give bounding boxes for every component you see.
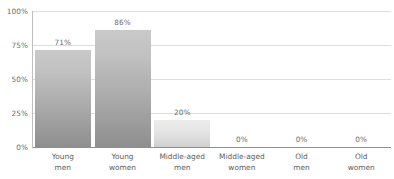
plot-area: 71% 86% 20% 0% 0% 0% xyxy=(33,11,391,147)
x-category-line1: Middle-aged xyxy=(212,151,272,162)
x-category-line2: men xyxy=(152,162,212,173)
x-category-line1: Young xyxy=(33,151,93,162)
bar-value-label: 20% xyxy=(152,108,212,117)
bar-value-label: 71% xyxy=(33,38,93,47)
bar-column: 86% xyxy=(93,11,153,147)
x-category-label: Old men xyxy=(272,149,332,179)
bar-column: 0% xyxy=(212,11,272,147)
x-category-line2: women xyxy=(93,162,153,173)
x-category-line1: Old xyxy=(272,151,332,162)
x-category-label: Young women xyxy=(93,149,153,179)
x-category-line2: women xyxy=(331,162,391,173)
x-category-line1: Young xyxy=(93,151,153,162)
x-category-line2: men xyxy=(33,162,93,173)
bar-value-label: 86% xyxy=(93,18,153,27)
y-tick-label: 75% xyxy=(0,41,28,50)
bar[interactable] xyxy=(35,50,91,147)
x-category-line1: Middle-aged xyxy=(152,151,212,162)
bar-column: 0% xyxy=(331,11,391,147)
y-tick-label: 25% xyxy=(0,109,28,118)
bar[interactable] xyxy=(95,30,151,147)
bar-series: 71% 86% 20% 0% 0% 0% xyxy=(33,11,391,147)
bar[interactable] xyxy=(154,120,210,147)
bar-column: 71% xyxy=(33,11,93,147)
y-axis: 100% 75% 50% 25% 0% xyxy=(0,0,31,179)
x-category-line1: Old xyxy=(331,151,391,162)
x-category-line2: men xyxy=(272,162,332,173)
bar-column: 20% xyxy=(152,11,212,147)
y-tick-label: 100% xyxy=(0,7,28,16)
x-category-label: Old women xyxy=(331,149,391,179)
x-axis-line xyxy=(33,147,391,148)
x-category-line2: women xyxy=(212,162,272,173)
bar-value-label: 0% xyxy=(212,135,272,144)
x-category-label: Middle-aged women xyxy=(212,149,272,179)
x-axis: Young men Young women Middle-aged men Mi… xyxy=(33,149,391,179)
bar-value-label: 0% xyxy=(331,135,391,144)
x-category-label: Young men xyxy=(33,149,93,179)
bar-column: 0% xyxy=(272,11,332,147)
bar-chart: 100% 75% 50% 25% 0% 71% 86% 20% xyxy=(0,0,394,179)
x-category-label: Middle-aged men xyxy=(152,149,212,179)
y-tick-label: 0% xyxy=(0,143,28,152)
bar-value-label: 0% xyxy=(272,135,332,144)
y-tick-label: 50% xyxy=(0,75,28,84)
